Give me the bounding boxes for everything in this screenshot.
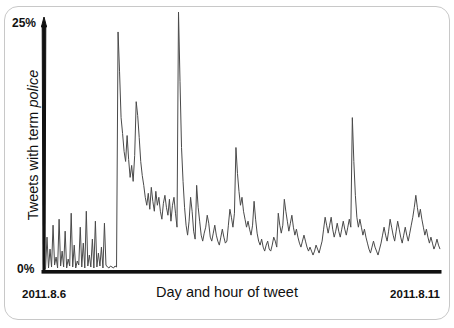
y-axis-title-term: police	[25, 70, 41, 108]
chart-svg	[0, 0, 454, 328]
x-axis-title: Day and hour of tweet	[0, 284, 454, 300]
x-axis-end-tick-label: 2011.8.11	[390, 288, 440, 300]
x-axis	[42, 271, 441, 274]
y-axis-title: Tweets with term police	[25, 50, 41, 240]
x-axis-start-tick-label: 2011.8.6	[22, 288, 66, 300]
chart-plot-area: 25% 0% Tweets with term police Day and h…	[0, 0, 454, 328]
figure-card: 25% 0% Tweets with term police Day and h…	[0, 0, 454, 328]
y-axis-top-tick-label: 25%	[12, 16, 36, 30]
y-axis	[41, 17, 46, 272]
data-series-line	[46, 12, 441, 269]
y-axis-title-prefix: Tweets with term	[25, 108, 41, 221]
y-axis-bottom-tick-label: 0%	[17, 262, 34, 276]
